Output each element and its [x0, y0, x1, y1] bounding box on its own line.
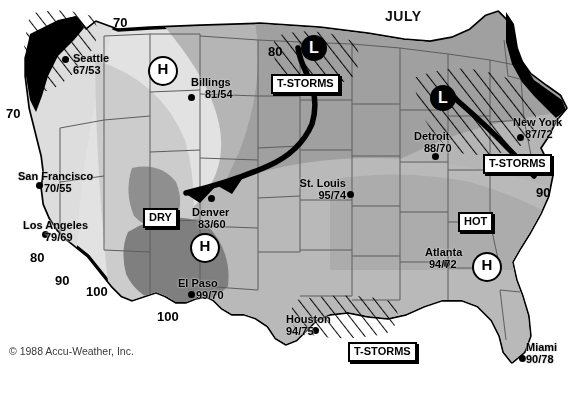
us-weather-map-graphic [0, 0, 583, 396]
weather-map-figure: JULY 70 70 80 90 100 100 80 90 H H H L L… [0, 0, 583, 396]
